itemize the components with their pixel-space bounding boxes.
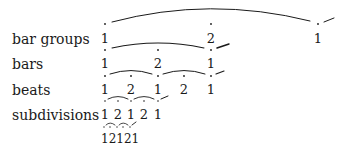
dots: [103, 23, 319, 128]
arcs: [106, 9, 334, 125]
grouping-arcs: [0, 0, 350, 159]
